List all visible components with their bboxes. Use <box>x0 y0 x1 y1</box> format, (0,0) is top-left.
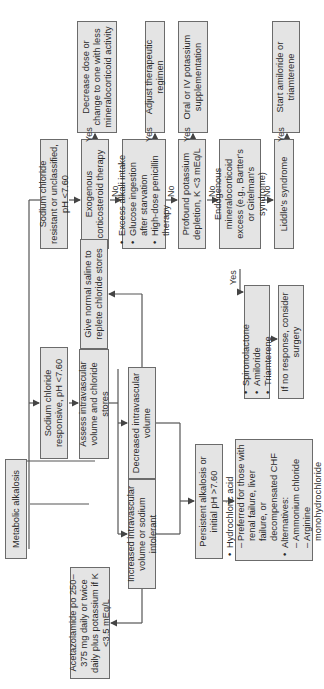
connector-lines-left <box>0 0 321 689</box>
flowchart-canvas: Metabolic alkalosis Sodium chloride resi… <box>0 0 321 689</box>
